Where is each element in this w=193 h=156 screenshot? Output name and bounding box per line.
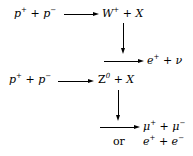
reaction1-rhs: W+ + X	[102, 8, 143, 20]
reaction2-decay-electrons: e+ + e−	[143, 136, 184, 148]
charge-sup: +	[16, 72, 22, 80]
x-symbol: X	[126, 73, 134, 86]
arrow-2-shaft	[123, 23, 124, 48]
arrow-4-shaft	[58, 81, 88, 82]
neutrino-symbol: ν	[176, 54, 183, 67]
proton-symbol: p	[14, 7, 21, 20]
charge-sup: −	[50, 6, 56, 14]
z-boson-symbol: Z	[98, 73, 106, 86]
w-boson-symbol: W	[102, 7, 113, 20]
or-label: or	[113, 136, 125, 148]
plus-sign: +	[25, 73, 34, 86]
charge-sup: 0	[106, 72, 110, 80]
reaction1-decay: e+ + ν	[147, 55, 182, 67]
reaction2-lhs: p+ + p−	[9, 74, 51, 86]
reaction2-rhs: Z0 + X	[98, 74, 134, 86]
arrow-6-shaft	[100, 127, 134, 128]
charge-sup: +	[150, 134, 156, 142]
plus-sign: +	[163, 54, 172, 67]
arrow-3-head	[138, 59, 144, 63]
charge-sup: −	[179, 119, 185, 127]
plus-sign: +	[159, 135, 168, 148]
arrow-1-head	[93, 12, 99, 16]
arrow-1-shaft	[64, 14, 93, 15]
charge-sup: +	[150, 119, 156, 127]
x-symbol: X	[135, 7, 143, 20]
arrow-4-head	[88, 79, 94, 83]
arrow-5-shaft	[118, 90, 119, 115]
arrow-6-head	[134, 125, 140, 129]
proton-symbol: p	[9, 73, 16, 86]
plus-sign: +	[30, 7, 39, 20]
reaction2-decay-muons: μ+ + μ−	[143, 121, 185, 133]
plus-sign: +	[114, 73, 123, 86]
plus-sign: +	[123, 7, 132, 20]
plus-sign: +	[160, 120, 169, 133]
arrow-5-head	[116, 115, 120, 121]
charge-sup: −	[178, 134, 184, 142]
reaction1-lhs: p+ + p−	[14, 8, 56, 20]
arrow-3-shaft	[104, 61, 138, 62]
arrow-2-head	[121, 48, 125, 54]
charge-sup: +	[154, 53, 160, 61]
charge-sup: +	[113, 6, 119, 14]
charge-sup: +	[21, 6, 27, 14]
charge-sup: −	[45, 72, 51, 80]
